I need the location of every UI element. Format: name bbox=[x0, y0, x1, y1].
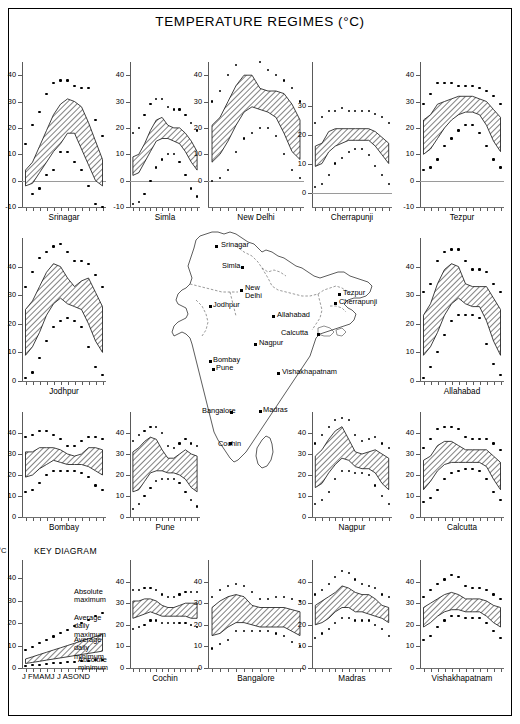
y-tick-label: 40 bbox=[106, 71, 124, 78]
x-tick bbox=[355, 208, 356, 211]
absolute-minimum-dot bbox=[31, 193, 33, 195]
station-name: Jodhpur bbox=[22, 387, 106, 396]
x-tick bbox=[191, 518, 192, 521]
y-tick-label: 30 bbox=[288, 599, 306, 606]
x-axis bbox=[130, 207, 200, 208]
absolute-maximum-dot bbox=[31, 434, 33, 436]
y-tick-label: 10 bbox=[106, 642, 124, 649]
station-name: Cochin bbox=[130, 674, 200, 683]
absolute-maximum-dot bbox=[485, 90, 487, 92]
x-tick bbox=[180, 518, 181, 521]
absolute-minimum-dot bbox=[499, 499, 501, 501]
x-tick bbox=[438, 382, 439, 385]
absolute-maximum-dot bbox=[196, 445, 198, 447]
absolute-minimum-dot bbox=[59, 151, 61, 153]
x-tick bbox=[438, 669, 439, 672]
x-tick bbox=[315, 208, 316, 211]
absolute-minimum-dot bbox=[38, 357, 40, 359]
y-tick-label: 0 bbox=[288, 664, 306, 671]
x-tick bbox=[480, 208, 481, 211]
x-tick bbox=[375, 669, 376, 672]
temperature-band bbox=[130, 62, 200, 207]
x-tick bbox=[156, 208, 157, 211]
x-tick bbox=[473, 669, 474, 672]
absolute-minimum-dot bbox=[275, 632, 277, 634]
absolute-minimum-dot bbox=[499, 637, 501, 639]
y-tick-label: 10 bbox=[396, 150, 414, 157]
x-tick bbox=[145, 208, 146, 211]
absolute-minimum-dot bbox=[45, 663, 47, 665]
absolute-maximum-dot bbox=[24, 436, 26, 438]
absolute-minimum-dot bbox=[66, 470, 68, 472]
x-tick bbox=[174, 518, 175, 521]
y-tick-label: 10 bbox=[184, 150, 202, 157]
y-tick-label: 20 bbox=[184, 621, 202, 628]
absolute-minimum-dot bbox=[275, 135, 277, 137]
absolute-minimum-dot bbox=[45, 340, 47, 342]
absolute-maximum-dot bbox=[381, 442, 383, 444]
absolute-maximum-dot bbox=[173, 447, 175, 449]
absolute-minimum-dot bbox=[429, 635, 431, 637]
x-tick bbox=[68, 382, 69, 385]
x-tick bbox=[236, 208, 237, 211]
y-tick-label: 20 bbox=[106, 471, 124, 478]
y-tick bbox=[416, 381, 420, 382]
absolute-maximum-dot bbox=[149, 426, 151, 428]
absolute-maximum-dot bbox=[267, 598, 269, 600]
absolute-maximum-dot bbox=[464, 436, 466, 438]
absolute-minimum-dot bbox=[361, 472, 363, 474]
chart-panel-tezpur: -10010203040Tezpur bbox=[420, 62, 504, 229]
absolute-minimum-dot bbox=[436, 158, 438, 160]
x-tick bbox=[54, 382, 55, 385]
absolute-minimum-dot bbox=[436, 489, 438, 491]
absolute-maximum-dot bbox=[328, 583, 330, 585]
station-name: Pune bbox=[130, 523, 200, 532]
y-tick-label: 30 bbox=[396, 450, 414, 457]
absolute-minimum-dot bbox=[94, 484, 96, 486]
x-tick bbox=[459, 382, 460, 385]
absolute-minimum-dot bbox=[66, 317, 68, 319]
x-tick bbox=[487, 208, 488, 211]
x-tick bbox=[494, 518, 495, 521]
absolute-maximum-dot bbox=[492, 442, 494, 444]
y-tick-label: 10 bbox=[0, 492, 16, 499]
absolute-maximum-dot bbox=[443, 82, 445, 84]
chart-panel-srinagar: -10010203040Srinagar bbox=[22, 62, 106, 229]
x-tick bbox=[96, 208, 97, 211]
absolute-maximum-dot bbox=[381, 593, 383, 595]
x-axis bbox=[22, 381, 106, 382]
absolute-minimum-dot bbox=[87, 185, 89, 187]
y-tick-label: 30 bbox=[288, 102, 306, 109]
y-tick-label: 0 bbox=[396, 513, 414, 520]
absolute-maximum-dot bbox=[471, 268, 473, 270]
absolute-minimum-dot bbox=[138, 626, 140, 628]
absolute-minimum-dot bbox=[457, 615, 459, 617]
x-tick bbox=[89, 382, 90, 385]
absolute-minimum-dot bbox=[328, 174, 330, 176]
absolute-maximum-dot bbox=[235, 64, 237, 66]
y-tick bbox=[126, 668, 130, 669]
y-tick-label: 20 bbox=[106, 124, 124, 131]
absolute-maximum-dot bbox=[66, 445, 68, 447]
absolute-maximum-dot bbox=[492, 593, 494, 595]
station-name: Cherrapunji bbox=[312, 213, 392, 222]
y-tick-label: 40 bbox=[288, 429, 306, 436]
x-tick bbox=[473, 208, 474, 211]
absolute-maximum-dot bbox=[31, 646, 33, 648]
x-tick bbox=[382, 669, 383, 672]
absolute-minimum-dot bbox=[59, 470, 61, 472]
chart-panel-nagpur: 010203040Nagpur bbox=[312, 412, 392, 539]
absolute-maximum-dot bbox=[499, 103, 501, 105]
absolute-minimum-dot bbox=[436, 626, 438, 628]
absolute-maximum-dot bbox=[436, 260, 438, 262]
temperature-band bbox=[22, 238, 106, 381]
absolute-minimum-dot bbox=[143, 495, 145, 497]
station-name: Vishakhapatnam bbox=[420, 674, 504, 683]
absolute-minimum-dot bbox=[321, 632, 323, 634]
x-tick bbox=[389, 208, 390, 211]
y-tick-label: 10 bbox=[396, 492, 414, 499]
absolute-minimum-dot bbox=[80, 169, 82, 171]
absolute-minimum-dot bbox=[87, 476, 89, 478]
absolute-minimum-dot bbox=[450, 137, 452, 139]
absolute-maximum-dot bbox=[161, 593, 163, 595]
